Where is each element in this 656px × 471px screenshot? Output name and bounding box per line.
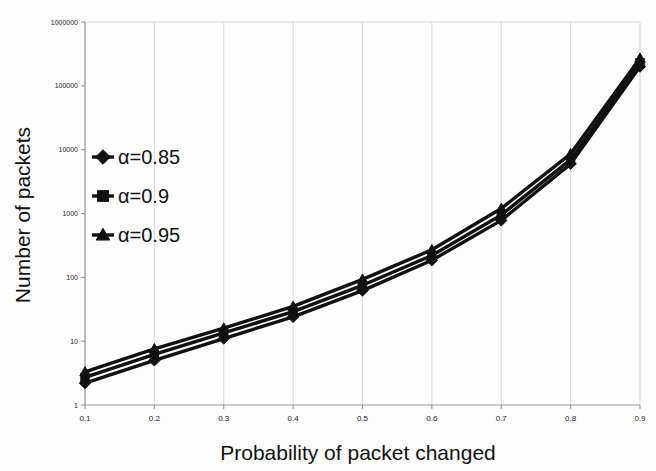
legend-label: α=0.9 (118, 185, 169, 207)
y-tick-label: 1 (74, 402, 78, 409)
legend-entry: α=0.9 (92, 185, 169, 207)
y-tick-label: 100 (66, 274, 78, 281)
x-tick-label: 0.4 (288, 414, 300, 423)
x-tick-label: 0.3 (218, 414, 230, 423)
legend: α=0.85α=0.9α=0.95 (92, 146, 180, 246)
data-point-marker (635, 53, 646, 62)
x-tick-label: 0.1 (79, 414, 91, 423)
y-tick-labels: 1101001000100001000001000000 (51, 19, 78, 409)
chart-figure: 1101001000100001000001000000 0.10.20.30.… (0, 0, 656, 471)
x-tick-label: 0.8 (565, 414, 577, 423)
x-axis-title: Probability of packet changed (220, 441, 496, 464)
y-tick-label: 1000000 (51, 19, 78, 26)
x-tick-labels: 0.10.20.30.40.50.60.70.80.9 (79, 414, 646, 423)
legend-label: α=0.85 (118, 146, 180, 168)
y-axis (81, 22, 85, 405)
x-tick-label: 0.7 (496, 414, 508, 423)
legend-marker-square (98, 191, 109, 202)
x-tick-label: 0.2 (149, 414, 161, 423)
line-chart: 1101001000100001000001000000 0.10.20.30.… (0, 0, 656, 471)
gridlines (85, 22, 640, 405)
x-axis (85, 405, 640, 409)
y-axis-title: Number of packets (11, 127, 34, 303)
y-tick-label: 10 (70, 338, 78, 345)
x-tick-label: 0.5 (357, 414, 369, 423)
y-tick-label: 10000 (59, 146, 79, 153)
x-tick-label: 0.9 (634, 414, 646, 423)
y-tick-label: 100000 (55, 82, 78, 89)
y-tick-label: 1000 (62, 210, 78, 217)
x-tick-label: 0.6 (426, 414, 438, 423)
legend-marker-diamond (96, 150, 111, 165)
legend-entry: α=0.95 (92, 224, 180, 246)
legend-label: α=0.95 (118, 224, 180, 246)
legend-entry: α=0.85 (92, 146, 180, 168)
